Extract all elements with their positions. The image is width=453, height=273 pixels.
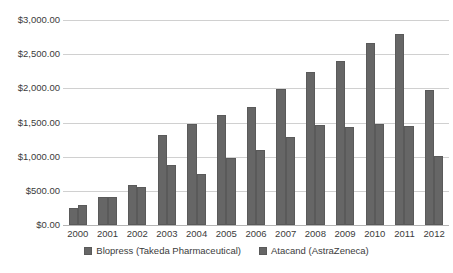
bar	[256, 150, 265, 226]
y-tick-label: $1,500.00	[0, 118, 60, 128]
bar	[217, 115, 226, 225]
bar	[158, 135, 167, 225]
x-tick-label: 2005	[211, 227, 241, 240]
x-tick-label: 2006	[241, 227, 271, 240]
bar	[425, 90, 434, 225]
bar	[69, 208, 78, 225]
bar-group	[98, 20, 116, 225]
plot-area	[63, 20, 449, 225]
bar	[226, 158, 235, 225]
bar-chart: $0.00$500.00$1,000.00$1,500.00$2,000.00$…	[0, 0, 453, 273]
y-axis: $0.00$500.00$1,000.00$1,500.00$2,000.00$…	[0, 20, 60, 225]
y-tick-label: $500.00	[0, 186, 60, 196]
bar	[315, 125, 324, 225]
x-tick-label: 2002	[122, 227, 152, 240]
bar-group	[69, 20, 87, 225]
y-tick-label: $0.00	[0, 220, 60, 230]
bar	[276, 89, 285, 225]
legend-label: Atacand (AstraZeneca)	[271, 245, 369, 256]
bar	[108, 197, 117, 225]
bar	[247, 107, 256, 225]
bar-group	[276, 20, 294, 225]
x-tick-label: 2008	[301, 227, 331, 240]
bar	[197, 174, 206, 225]
bar	[434, 156, 443, 225]
legend-swatch-icon	[84, 247, 92, 255]
x-tick-label: 2011	[390, 227, 420, 240]
y-tick-label: $3,000.00	[0, 15, 60, 25]
legend-label: Blopress (Takeda Pharmaceutical)	[96, 245, 241, 256]
bar	[336, 61, 345, 225]
bar	[98, 197, 107, 225]
bar-group	[187, 20, 205, 225]
bar-group	[128, 20, 146, 225]
legend-item[interactable]: Blopress (Takeda Pharmaceutical)	[84, 245, 241, 256]
bar	[395, 34, 404, 225]
chart-legend: Blopress (Takeda Pharmaceutical)Atacand …	[0, 245, 453, 256]
bar-group	[366, 20, 384, 225]
legend-item[interactable]: Atacand (AstraZeneca)	[259, 245, 369, 256]
bar-group	[395, 20, 413, 225]
bar-group	[217, 20, 235, 225]
bar	[167, 165, 176, 225]
y-tick-label: $2,000.00	[0, 83, 60, 93]
bar	[404, 126, 413, 225]
bar	[345, 127, 354, 225]
y-tick-label: $1,000.00	[0, 152, 60, 162]
bar	[366, 43, 375, 225]
x-tick-label: 2003	[152, 227, 182, 240]
x-tick-label: 2004	[182, 227, 212, 240]
bar-group	[247, 20, 265, 225]
x-tick-label: 2001	[93, 227, 123, 240]
x-tick-label: 2009	[330, 227, 360, 240]
bars-layer	[63, 20, 449, 225]
x-tick-label: 2007	[271, 227, 301, 240]
bar	[78, 205, 87, 225]
bar-group	[425, 20, 443, 225]
x-tick-label: 2010	[360, 227, 390, 240]
x-axis: 2000200120022003200420052006200720082009…	[63, 227, 449, 241]
legend-swatch-icon	[259, 247, 267, 255]
gridline	[63, 225, 449, 226]
bar	[306, 72, 315, 225]
bar-group	[336, 20, 354, 225]
bar-group	[158, 20, 176, 225]
bar	[128, 185, 137, 225]
y-tick-label: $2,500.00	[0, 49, 60, 59]
bar	[375, 124, 384, 225]
x-tick-label: 2012	[419, 227, 449, 240]
x-tick-label: 2000	[63, 227, 93, 240]
bar	[137, 187, 146, 225]
bar	[286, 137, 295, 225]
bar	[187, 124, 196, 225]
bar-group	[306, 20, 324, 225]
